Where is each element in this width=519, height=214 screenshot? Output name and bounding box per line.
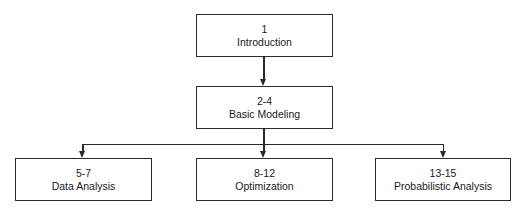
node-chapters: 13-15 bbox=[430, 167, 457, 180]
connector-intro-basic bbox=[263, 57, 265, 79]
node-title: Data Analysis bbox=[52, 180, 116, 193]
node-probabilistic-analysis: 13-15 Probabilistic Analysis bbox=[375, 158, 511, 201]
arrowhead-icon bbox=[260, 151, 266, 158]
node-title: Introduction bbox=[237, 36, 292, 49]
node-optimization: 8-12 Optimization bbox=[196, 158, 333, 201]
node-chapters: 8-12 bbox=[254, 167, 275, 180]
node-introduction: 1 Introduction bbox=[196, 14, 333, 57]
connector-to-data-analysis bbox=[82, 144, 84, 151]
connector-to-optimization bbox=[263, 144, 265, 151]
node-chapters: 5-7 bbox=[76, 167, 91, 180]
arrowhead-icon bbox=[79, 151, 85, 158]
node-title: Basic Modeling bbox=[229, 108, 300, 121]
node-title: Optimization bbox=[235, 180, 293, 193]
node-data-analysis: 5-7 Data Analysis bbox=[15, 158, 152, 201]
node-chapters: 2-4 bbox=[257, 95, 272, 108]
arrowhead-icon bbox=[260, 79, 266, 86]
node-title: Probabilistic Analysis bbox=[394, 180, 492, 193]
arrowhead-icon bbox=[440, 151, 446, 158]
node-basic-modeling: 2-4 Basic Modeling bbox=[196, 86, 333, 129]
node-chapters: 1 bbox=[262, 23, 268, 36]
connector-basic-trunk bbox=[263, 129, 265, 144]
connector-to-probabilistic-analysis bbox=[443, 144, 445, 151]
